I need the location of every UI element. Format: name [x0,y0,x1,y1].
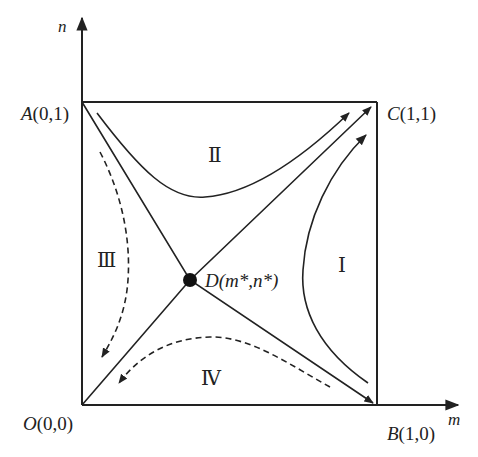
point-o-label: O(0,0) [23,413,73,435]
x-axis-label: m [448,410,460,429]
point-d-label: D(m*,n*) [204,270,278,292]
region-ii-label: Ⅱ [208,144,222,166]
region-i-label: Ⅰ [338,254,346,276]
equilibrium-point-d [183,273,197,287]
point-c-label: C(1,1) [387,103,436,125]
trajectory-region-i [303,135,368,383]
point-b-label: B(1,0) [387,423,435,445]
y-axis-label: n [58,17,67,36]
region-iii-label: Ⅲ [97,249,116,271]
point-a-label: A(0,1) [19,103,69,125]
region-iv-label: Ⅳ [201,367,222,389]
separatrix-o-c [82,107,371,405]
trajectory-region-ii [97,113,349,197]
trajectory-region-iv-dashed [119,337,330,387]
phase-diagram: n m A(0,1) C(1,1) O(0,0) B(1,0) D(m*,n*)… [0,0,478,457]
